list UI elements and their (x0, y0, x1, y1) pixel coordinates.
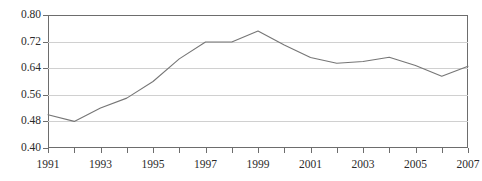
y-tick-mark (43, 68, 48, 69)
x-tick-mark (74, 148, 75, 153)
y-axis-line (48, 15, 49, 148)
x-tick-mark (389, 148, 390, 153)
x-tick-label: 1993 (89, 158, 112, 170)
y-tick-label: 0.72 (21, 36, 41, 48)
line-chart: 0.400.480.560.640.720.80 199119931995199… (0, 0, 482, 181)
y-tick-mark (43, 42, 48, 43)
y-tick-label: 0.48 (21, 115, 41, 127)
x-tick-label: 2005 (404, 158, 427, 170)
x-tick-mark (416, 148, 417, 153)
gridline-y (48, 68, 468, 69)
x-tick-mark (153, 148, 154, 153)
x-tick-mark (284, 148, 285, 153)
x-tick-label: 2001 (299, 158, 322, 170)
x-tick-mark (468, 148, 469, 153)
y-tick-label: 0.56 (21, 89, 41, 101)
gridline-y (48, 121, 468, 122)
y-tick-mark (43, 15, 48, 16)
y-tick-label: 0.80 (21, 9, 41, 21)
x-tick-mark (363, 148, 364, 153)
x-tick-mark (337, 148, 338, 153)
y-tick-mark (43, 95, 48, 96)
x-tick-mark (48, 148, 49, 153)
x-tick-mark (101, 148, 102, 153)
y-axis-label-group: 0.400.480.560.640.720.80 (0, 0, 41, 181)
y-tick-mark (43, 121, 48, 122)
x-tick-mark (206, 148, 207, 153)
x-tick-mark (258, 148, 259, 153)
x-tick-mark (127, 148, 128, 153)
x-tick-label: 2003 (352, 158, 375, 170)
plot-area (48, 15, 468, 148)
x-tick-label: 1991 (37, 158, 60, 170)
gridline-y (48, 42, 468, 43)
x-tick-label: 1997 (194, 158, 217, 170)
x-tick-mark (232, 148, 233, 153)
x-tick-label: 1999 (247, 158, 270, 170)
plot-border-top (48, 15, 468, 16)
x-tick-label: 2007 (457, 158, 480, 170)
y-tick-label: 0.40 (21, 142, 41, 154)
x-tick-mark (442, 148, 443, 153)
gridline-y (48, 95, 468, 96)
x-tick-mark (311, 148, 312, 153)
x-tick-label: 1995 (142, 158, 165, 170)
plot-border-right (467, 15, 468, 148)
x-tick-mark (179, 148, 180, 153)
y-tick-label: 0.64 (21, 62, 41, 74)
